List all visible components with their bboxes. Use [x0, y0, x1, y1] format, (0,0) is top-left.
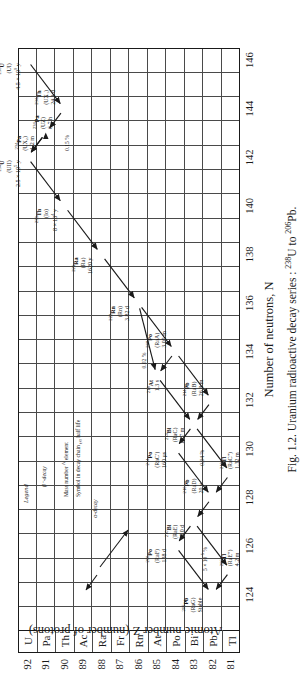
legend-beta-decay-label: β⁻-decay: [41, 466, 47, 487]
x-axis-tick: 128: [244, 477, 255, 517]
y-axis-atomic-number: 91: [37, 659, 56, 685]
x-axis-label: Number of neutrons, N: [262, 48, 277, 631]
nuclide-label: 234Th(UX₁)24.1 d: [34, 90, 56, 105]
nuclide-label: 226Ra(Ra)1620 y: [71, 257, 93, 347]
x-axis-tick: 126: [244, 526, 255, 566]
x-axis-tick: 140: [244, 186, 255, 226]
grid-hline: [221, 49, 222, 630]
y-axis-label: Atomic number Z (number of protons): [11, 623, 241, 638]
x-axis-tick: 144: [244, 89, 255, 129]
y-axis-atomic-number: 90: [55, 659, 74, 685]
x-axis-tick: 132: [244, 380, 255, 420]
y-axis-atomic-number: 92: [18, 659, 37, 685]
legend-mass-number-line: Mass number A element: [61, 442, 69, 497]
nuclide-label: 206Tl(RaE″)4.2 m: [219, 549, 241, 566]
nuclide-label: 230Th(Io)8 × 104 y: [34, 209, 58, 299]
legend-symbol-line: Symbol in decay chain t½ half life: [75, 420, 83, 497]
grid-hline: [54, 49, 55, 630]
x-axis-tick: 146: [244, 40, 255, 80]
figure-caption: Fig. 1.2. Uranium radioactive decay seri…: [284, 48, 298, 631]
y-axis-atomic-number: 81: [222, 659, 241, 685]
nuclide-label: 234U(UII)2.5 × 105 y: [0, 160, 21, 250]
x-axis-tick: 124: [244, 575, 255, 615]
nuclide-label: 234Pa(UZ)6.7 h: [32, 115, 54, 129]
legend-title: Legend: [22, 484, 30, 503]
branching-ratio-label: 0.02 %: [141, 353, 147, 423]
grid-hline: [36, 49, 37, 630]
x-axis-tick: 142: [244, 137, 255, 177]
y-axis-atomic-number: 82: [203, 659, 222, 685]
legend: Legend: [22, 484, 30, 503]
branching-ratio-label: 5 × 10-5 %: [200, 547, 208, 617]
nuclide-label: 210Tl(RaC″)1.32 m: [219, 452, 241, 469]
grid-hline: [202, 49, 203, 630]
nuclide-label: 222Rn(Rn)3.82 d: [108, 306, 130, 396]
y-axis-atomic-number: 85: [148, 659, 167, 685]
y-axis-atomic-number: 87: [111, 659, 130, 685]
branching-ratio-label: 0.15 %: [64, 135, 70, 205]
nuclide-label: 214Pb(RaB)26.8 m: [182, 380, 204, 397]
x-axis-tick: 130: [244, 429, 255, 469]
branching-ratio-label: 0.04 %: [199, 450, 205, 520]
x-axis-tick: 138: [244, 234, 255, 274]
figure-stage: UPaThAcRaFrRnAtPoBiPbTl 9291908988878685…: [0, 0, 305, 693]
nuclide-label: 210Po(RaF)138 d: [145, 549, 167, 639]
nuclide-label: 218Po(RaA)3.05 m: [145, 331, 167, 348]
y-axis-atomic-number: 89: [74, 659, 93, 685]
y-axis-atomic-number: 88: [92, 659, 111, 685]
y-axis-atomic-number: 86: [129, 659, 148, 685]
x-axis-tick: 136: [244, 283, 255, 323]
x-axis-tick: 134: [244, 332, 255, 372]
legend-alpha-decay-label: α-decay: [92, 500, 98, 518]
decay-series-figure: UPaThAcRaFrRnAtPoBiPbTl 9291908988878685…: [0, 0, 305, 693]
